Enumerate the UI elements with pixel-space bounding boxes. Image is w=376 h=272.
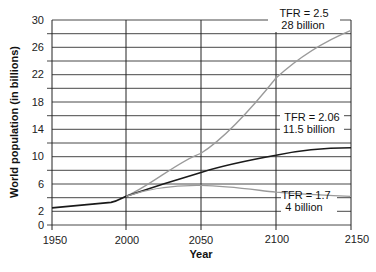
x-axis-ticks: 1950 2000 2050 2100 2150 [43, 233, 369, 246]
y-axis-ticks: 30 26 22 18 14 10 6 2 0 [32, 14, 44, 231]
annot-mid-tfr: TFR = 2.06 [284, 111, 339, 123]
x-tick-2000: 2000 [115, 234, 139, 246]
y-tick-14: 14 [32, 123, 44, 135]
y-axis-title: World population (in billions) [8, 46, 20, 198]
x-tick-2050: 2050 [189, 234, 213, 246]
annot-high-pop: 28 billion [281, 19, 324, 31]
annotation-tfr-2.5: TFR = 2.5 28 billion [279, 7, 328, 31]
x-tick-2150: 2150 [345, 233, 369, 245]
annot-low-pop: 4 billion [285, 201, 322, 213]
annotation-tfr-2.06: TFR = 2.06 11.5 billion [283, 111, 340, 135]
x-tick-1950: 1950 [43, 234, 67, 246]
y-tick-26: 26 [32, 41, 44, 53]
annot-mid-pop: 11.5 billion [283, 123, 335, 135]
annot-high-tfr: TFR = 2.5 [279, 7, 328, 19]
annot-low-tfr: TFR = 1.7 [281, 189, 330, 201]
y-tick-6: 6 [38, 178, 44, 190]
y-tick-0: 0 [38, 219, 44, 231]
y-tick-10: 10 [32, 150, 44, 162]
x-tick-2100: 2100 [265, 233, 289, 245]
y-tick-2: 2 [38, 205, 44, 217]
y-tick-18: 18 [32, 96, 44, 108]
x-axis-title: Year [189, 248, 213, 260]
population-chart: 30 26 22 18 14 10 6 2 0 1950 2000 2050 2… [0, 0, 376, 272]
y-tick-22: 22 [32, 68, 44, 80]
y-tick-30: 30 [32, 14, 44, 26]
